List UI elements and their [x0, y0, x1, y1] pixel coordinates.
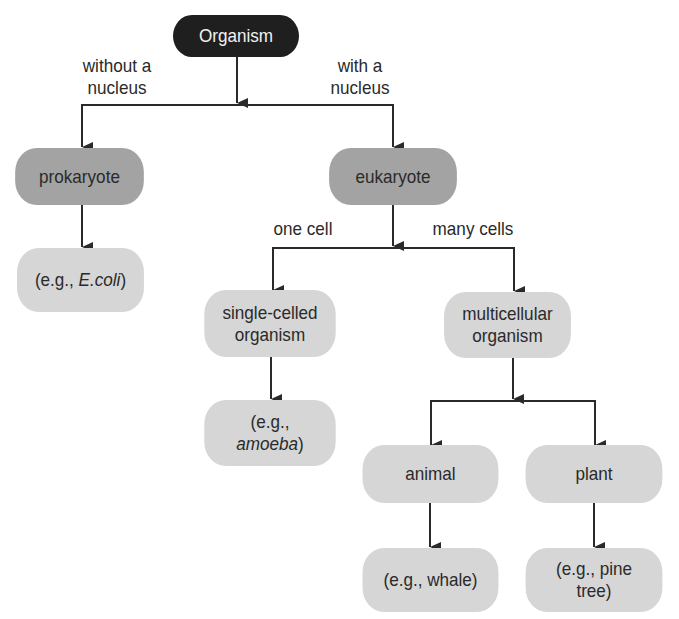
node-eukaryote-label: eukaryote — [355, 166, 430, 188]
node-organism: Organism — [173, 15, 299, 57]
node-example-amoeba: (e.g., amoeba) — [204, 400, 335, 466]
without-nucleus-line1: without a — [68, 55, 167, 77]
whale-label: (e.g., whale) — [383, 569, 477, 591]
node-multicellular-organism: multicellular organism — [444, 292, 571, 358]
node-prokaryote-label: prokaryote — [39, 166, 120, 188]
amoeba-suffix: ) — [298, 433, 304, 454]
amoeba-species: amoeba — [236, 433, 298, 454]
single-celled-line1: single-celled — [222, 302, 317, 324]
amoeba-line2: amoeba) — [236, 433, 304, 455]
pine-tree-line1: (e.g., pine — [556, 558, 632, 580]
pine-tree-line2: tree) — [576, 580, 611, 602]
node-example-ecoli: (e.g., E.coli) — [17, 248, 144, 312]
node-organism-label: Organism — [199, 25, 273, 47]
node-example-pine-tree: (e.g., pine tree) — [526, 548, 663, 612]
ecoli-prefix: (e.g., — [35, 269, 79, 290]
edge-label-many-cells: many cells — [424, 218, 523, 240]
animal-label: animal — [405, 463, 455, 485]
with-nucleus-line1: with a — [315, 55, 405, 77]
node-example-whale: (e.g., whale) — [363, 548, 499, 612]
edge-label-one-cell: one cell — [263, 218, 344, 240]
node-plant: plant — [526, 445, 663, 503]
node-prokaryote: prokaryote — [15, 148, 144, 205]
ecoli-suffix: ) — [120, 269, 126, 290]
node-animal: animal — [363, 445, 499, 503]
ecoli-species: E.coli — [79, 269, 121, 290]
edge-label-without-nucleus: without a nucleus — [68, 55, 167, 99]
without-nucleus-line2: nucleus — [68, 77, 167, 99]
node-single-celled-organism: single-celled organism — [204, 290, 335, 357]
node-eukaryote: eukaryote — [329, 148, 457, 205]
node-ecoli-label: (e.g., E.coli) — [35, 269, 126, 291]
multicellular-line1: multicellular — [462, 303, 552, 325]
single-celled-line2: organism — [235, 324, 305, 346]
plant-label: plant — [575, 463, 612, 485]
edge-label-with-nucleus: with a nucleus — [315, 55, 405, 99]
multicellular-line2: organism — [472, 325, 542, 347]
with-nucleus-line2: nucleus — [315, 77, 405, 99]
amoeba-line1: (e.g., — [251, 411, 290, 433]
